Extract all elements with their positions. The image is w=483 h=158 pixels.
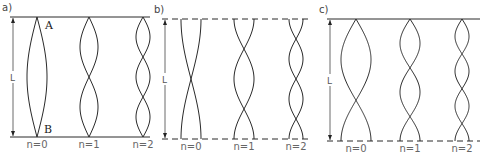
panel-a: a)LABn=0n=1n=2 bbox=[2, 2, 154, 150]
mode-label: n=1 bbox=[78, 139, 99, 150]
mode-n-2: n=2 bbox=[132, 17, 153, 150]
mode-label: n=0 bbox=[180, 141, 201, 152]
mode-curve-right bbox=[234, 19, 254, 139]
mode-n-0: n=0 bbox=[180, 19, 201, 152]
mode-label: n=2 bbox=[132, 139, 153, 150]
mode-curve-right bbox=[136, 17, 150, 137]
length-dimension: L bbox=[9, 18, 17, 136]
mode-n-1: n=1 bbox=[399, 19, 420, 154]
length-dimension: L bbox=[326, 20, 334, 140]
arrow-up-icon bbox=[163, 20, 167, 25]
mode-label: n=1 bbox=[233, 141, 254, 152]
mode-label: n=2 bbox=[451, 143, 472, 154]
mode-label: n=1 bbox=[399, 143, 420, 154]
mode-n-1: n=1 bbox=[233, 19, 254, 152]
mode-label: n=0 bbox=[345, 143, 366, 154]
mode-curve-left bbox=[234, 19, 254, 139]
panel-b: b)Ln=0n=1n=2 bbox=[154, 4, 312, 152]
mode-curve-right bbox=[80, 17, 98, 137]
length-label: L bbox=[327, 76, 332, 86]
point-label-top: A bbox=[44, 19, 54, 32]
mode-n-2: n=2 bbox=[451, 19, 472, 154]
buckling-modes-diagram: a)LABn=0n=1n=2b)Ln=0n=1n=2c)Ln=0n=1n=2 bbox=[0, 0, 483, 158]
point-label-bottom: B bbox=[44, 123, 52, 136]
mode-n-2: n=2 bbox=[285, 19, 306, 152]
mode-curve-left bbox=[136, 17, 150, 137]
length-label: L bbox=[162, 75, 167, 85]
mode-n-0: n=0 bbox=[341, 19, 371, 154]
mode-label: n=0 bbox=[26, 139, 47, 150]
mode-curve-right bbox=[289, 19, 303, 139]
panel-c: c)Ln=0n=1n=2 bbox=[319, 4, 480, 154]
arrow-up-icon bbox=[11, 18, 15, 23]
length-label: L bbox=[10, 73, 15, 83]
arrow-up-icon bbox=[328, 20, 332, 25]
mode-n-1: n=1 bbox=[78, 17, 99, 150]
mode-curve-left bbox=[27, 17, 37, 137]
panel-label: c) bbox=[319, 4, 328, 15]
mode-label: n=2 bbox=[285, 141, 306, 152]
mode-curve-right bbox=[37, 17, 47, 137]
arrow-down-icon bbox=[11, 131, 15, 136]
mode-curve-right bbox=[181, 19, 201, 139]
arrow-down-icon bbox=[163, 133, 167, 138]
panel-label: b) bbox=[154, 4, 164, 15]
arrow-down-icon bbox=[328, 135, 332, 140]
length-dimension: L bbox=[161, 20, 169, 138]
panel-label: a) bbox=[2, 2, 12, 13]
